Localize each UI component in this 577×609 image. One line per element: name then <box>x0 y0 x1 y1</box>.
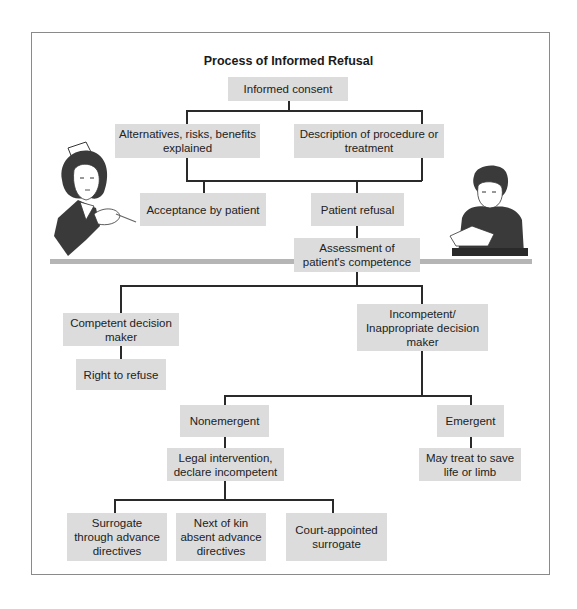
nurse-illustration-icon <box>48 140 140 260</box>
node-assessment-of-competence: Assessment of patient's competence <box>294 238 420 272</box>
node-competent-decision-maker: Competent decision maker <box>63 313 179 346</box>
connector <box>114 499 116 513</box>
connector <box>224 395 226 405</box>
node-may-treat: May treat to save life or limb <box>419 448 521 481</box>
connector <box>224 436 226 448</box>
node-incompetent-decision-maker: Incompetent/ Inappropriate decision make… <box>357 304 488 351</box>
node-alternatives-risks-benefits: Alternatives, risks, benefits explained <box>115 124 260 158</box>
connector <box>186 180 422 182</box>
diagram-title: Process of Informed Refusal <box>0 54 577 68</box>
connector <box>114 499 333 501</box>
node-legal-intervention: Legal intervention, declare incompetent <box>167 448 284 481</box>
patient-reading-illustration-icon <box>448 162 532 258</box>
node-surrogate-advance-directives: Surrogate through advance directives <box>67 513 167 561</box>
connector <box>332 499 334 513</box>
node-patient-refusal: Patient refusal <box>311 193 404 226</box>
connector <box>421 110 423 124</box>
connector <box>356 180 358 193</box>
connector <box>421 285 423 304</box>
connector <box>186 110 422 112</box>
connector <box>186 157 188 181</box>
connector <box>421 350 423 396</box>
node-right-to-refuse: Right to refuse <box>76 359 166 390</box>
connector <box>470 436 472 448</box>
node-next-of-kin: Next of kin absent advance directives <box>176 513 266 561</box>
connector <box>203 180 205 193</box>
connector <box>120 285 122 313</box>
node-court-appointed-surrogate: Court-appointed surrogate <box>286 513 387 561</box>
connector <box>120 285 422 287</box>
node-acceptance-by-patient: Acceptance by patient <box>140 193 266 226</box>
connector <box>120 345 122 359</box>
connector <box>224 480 226 500</box>
connector <box>421 157 423 181</box>
node-nonemergent: Nonemergent <box>180 405 269 437</box>
connector <box>356 225 358 238</box>
connector <box>224 395 471 397</box>
node-emergent: Emergent <box>437 405 504 437</box>
node-informed-consent: Informed consent <box>228 77 348 101</box>
node-description-of-procedure: Description of procedure or treatment <box>294 124 444 158</box>
connector <box>356 271 358 286</box>
connector <box>186 110 188 124</box>
connector <box>470 395 472 405</box>
